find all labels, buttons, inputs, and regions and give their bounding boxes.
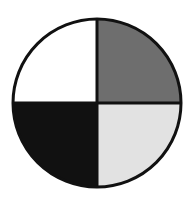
pie-chart: [0, 0, 194, 207]
